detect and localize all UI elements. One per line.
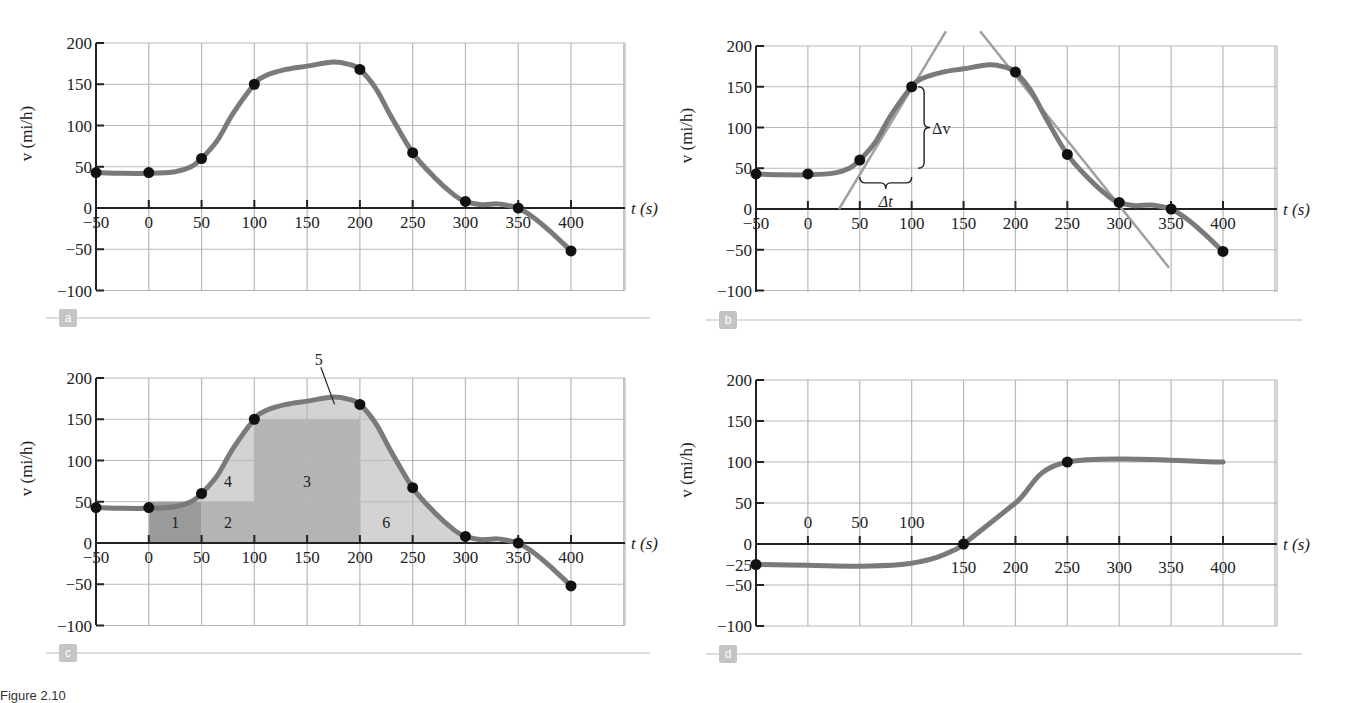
x-tick-label: 200 xyxy=(347,213,373,232)
x-tick-label: 50 xyxy=(193,548,210,567)
data-point xyxy=(460,196,471,207)
y-tick-label: 100 xyxy=(727,119,753,138)
data-point xyxy=(1062,149,1073,160)
y-tick-label: 200 xyxy=(67,34,93,53)
x-tick-label: 150 xyxy=(294,213,320,232)
data-point xyxy=(1010,67,1021,78)
panel-c-area-graph: 200150100500−50−100−50050100150200250300… xyxy=(17,351,658,662)
x-tick-label: 150 xyxy=(951,558,977,577)
panel-b-tangent-graph: 200150100500−50−100−50050100150200250300… xyxy=(677,31,1310,329)
x-tick-label: 100 xyxy=(899,214,925,233)
x-tick-label: 200 xyxy=(347,548,373,567)
data-point xyxy=(354,64,365,75)
y-tick-label: 150 xyxy=(67,75,93,94)
x-tick-label: 350 xyxy=(1158,558,1184,577)
data-point xyxy=(1166,204,1177,215)
x-tick-label: 400 xyxy=(558,213,584,232)
x-tick-label: 250 xyxy=(1055,214,1081,233)
y-tick-label: −50 xyxy=(725,576,752,595)
x-tick-label: 200 xyxy=(1003,558,1029,577)
y-tick-label: 100 xyxy=(67,452,93,471)
data-point xyxy=(566,245,577,256)
panel-a-velocity-graph: 200150100500−50−100−50050100150200250300… xyxy=(17,34,658,327)
y-tick-label: 100 xyxy=(67,117,93,136)
x-tick-label: 0 xyxy=(145,213,154,232)
y-tick-label: 100 xyxy=(727,453,753,472)
data-point xyxy=(751,559,762,570)
data-point xyxy=(1218,246,1229,257)
data-point xyxy=(143,167,154,178)
y-tick-label: 50 xyxy=(735,494,752,513)
y-axis-title: v (mi/h) xyxy=(17,106,36,161)
region-label-3: 3 xyxy=(303,473,311,490)
x-tick-label: 300 xyxy=(453,213,479,232)
data-point xyxy=(196,488,207,499)
data-point xyxy=(249,414,260,425)
delta-t-label: Δt xyxy=(878,193,893,210)
x-tick-label: 100 xyxy=(899,513,925,532)
region-label-1: 1 xyxy=(171,514,179,531)
x-tick-label: 200 xyxy=(1003,214,1029,233)
x-tick-label: −50 xyxy=(743,214,770,233)
y-axis-title: v (mi/h) xyxy=(677,108,696,163)
data-point xyxy=(1062,457,1073,468)
data-point xyxy=(906,81,917,92)
y-axis-title: v (mi/h) xyxy=(17,441,36,496)
data-point xyxy=(407,147,418,158)
y-tick-label: −100 xyxy=(717,282,752,301)
x-tick-label: 400 xyxy=(1210,558,1236,577)
x-tick-label: 400 xyxy=(1210,214,1236,233)
y-tick-label: −25 xyxy=(725,556,752,575)
y-tick-label: −100 xyxy=(57,282,92,301)
data-point xyxy=(91,502,102,513)
x-axis-title: t (s) xyxy=(631,199,658,218)
data-point xyxy=(249,79,260,90)
y-tick-label: 150 xyxy=(727,412,753,431)
x-tick-label: 150 xyxy=(951,214,977,233)
data-point xyxy=(407,482,418,493)
x-tick-label: 300 xyxy=(1106,558,1132,577)
x-axis-title: t (s) xyxy=(1283,535,1310,554)
y-tick-label: −50 xyxy=(725,241,752,260)
y-tick-label: 200 xyxy=(67,369,93,388)
data-point xyxy=(751,168,762,179)
velocity-curve xyxy=(756,459,1223,566)
data-point xyxy=(566,580,577,591)
data-point xyxy=(354,399,365,410)
data-point xyxy=(1114,197,1125,208)
region-label-2: 2 xyxy=(224,514,232,531)
data-point xyxy=(196,153,207,164)
x-axis-title: t (s) xyxy=(1283,200,1310,219)
panel-letter: b xyxy=(725,313,732,327)
x-tick-label: 100 xyxy=(242,213,268,232)
x-axis-title: t (s) xyxy=(631,534,658,553)
x-tick-label: −50 xyxy=(83,213,110,232)
data-point xyxy=(513,538,524,549)
figure-caption: Figure 2.10 xyxy=(0,688,66,703)
y-tick-label: −50 xyxy=(65,575,92,594)
region-label-6: 6 xyxy=(382,514,390,531)
x-tick-label: 250 xyxy=(400,213,426,232)
y-tick-label: 50 xyxy=(75,158,92,177)
x-tick-label: 0 xyxy=(145,548,154,567)
y-tick-label: 150 xyxy=(67,410,93,429)
region-label-5: 5 xyxy=(315,351,323,368)
x-tick-label: 50 xyxy=(851,513,868,532)
x-tick-label: 0 xyxy=(804,214,813,233)
x-tick-label: 300 xyxy=(453,548,479,567)
y-axis-title: v (mi/h) xyxy=(677,442,696,497)
x-tick-label: 100 xyxy=(242,548,268,567)
x-tick-label: −50 xyxy=(83,548,110,567)
panel-d-velocity-graph: 200150100500−25−50−100050100150200250300… xyxy=(677,371,1310,663)
delta-v-label: Δv xyxy=(932,120,950,137)
data-point xyxy=(854,155,865,166)
y-tick-label: 50 xyxy=(75,493,92,512)
velocity-curve xyxy=(756,65,1223,252)
x-tick-label: 250 xyxy=(400,548,426,567)
panel-letter: d xyxy=(725,647,732,661)
data-point xyxy=(513,203,524,214)
velocity-curve xyxy=(96,62,571,251)
y-tick-label: −100 xyxy=(57,617,92,636)
y-tick-label: 150 xyxy=(727,78,753,97)
